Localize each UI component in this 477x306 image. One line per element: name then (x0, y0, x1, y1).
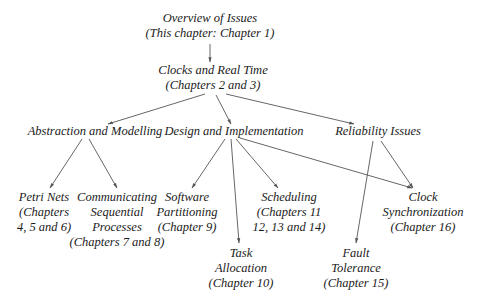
node-overview-subtitle: (This chapter: Chapter 1) (146, 26, 275, 41)
node-clocks-title: Clocks and Real Time (158, 63, 267, 78)
node-csp-line-2: Sequential (70, 205, 165, 220)
edge-design-software (192, 139, 225, 188)
node-abstraction: Abstraction and Modelling (28, 124, 163, 139)
node-task: Task Allocation (Chapter 10) (209, 246, 274, 291)
node-csp-line-3: Processes (70, 220, 165, 235)
edge-clocks-design (216, 95, 231, 124)
edge-abstraction-petri (50, 139, 82, 188)
node-csp: Communicating Sequential Processes (Chap… (70, 190, 165, 250)
node-software-line-2: Partitioning (156, 205, 217, 220)
node-petri: Petri Nets (Chapters 4, 5 and 6) (17, 190, 71, 235)
edge-reliability-fault (356, 141, 373, 243)
node-scheduling: Scheduling (Chapters 11 12, 13 and 14) (253, 190, 326, 235)
node-software-line-3: (Chapter 9) (156, 220, 217, 235)
node-fault: Fault Tolerance (Chapter 15) (324, 246, 389, 291)
node-fault-line-1: Fault (324, 246, 389, 261)
edge-design-clocksync (240, 138, 412, 188)
node-clocksync-line-2: Synchronization (383, 205, 464, 220)
node-reliability-title: Reliability Issues (335, 124, 421, 139)
edge-abstraction-csp (89, 139, 117, 188)
node-clocksync-line-1: Clock (383, 190, 464, 205)
node-task-line-1: Task (209, 246, 274, 261)
edge-reliability-clocksync (381, 141, 413, 188)
node-csp-line-4: (Chapters 7 and 8) (70, 235, 165, 250)
diagram-canvas: Overview of Issues (This chapter: Chapte… (0, 0, 477, 306)
edge-clocks-reliability (226, 94, 354, 124)
node-clocksync: Clock Synchronization (Chapter 16) (383, 190, 464, 235)
node-abstraction-title: Abstraction and Modelling (28, 124, 163, 139)
edge-design-task (231, 139, 239, 243)
node-design-title: Design and Implementation (165, 124, 304, 139)
node-fault-line-2: Tolerance (324, 261, 389, 276)
node-scheduling-line-3: 12, 13 and 14) (253, 220, 326, 235)
node-design: Design and Implementation (165, 124, 304, 139)
node-csp-line-1: Communicating (70, 190, 165, 205)
node-software-line-1: Software (156, 190, 217, 205)
node-task-line-3: (Chapter 10) (209, 276, 274, 291)
node-overview-title: Overview of Issues (146, 11, 275, 26)
node-clocksync-line-3: (Chapter 16) (383, 220, 464, 235)
node-clocks: Clocks and Real Time (Chapters 2 and 3) (158, 63, 267, 93)
node-task-line-2: Allocation (209, 261, 274, 276)
edge-clocks-abstraction (108, 94, 205, 124)
node-software: Software Partitioning (Chapter 9) (156, 190, 217, 235)
node-scheduling-line-2: (Chapters 11 (253, 205, 326, 220)
edge-design-scheduling (236, 139, 278, 188)
node-petri-line-2: (Chapters (17, 205, 71, 220)
node-fault-line-3: (Chapter 15) (324, 276, 389, 291)
node-petri-line-1: Petri Nets (17, 190, 71, 205)
node-overview: Overview of Issues (This chapter: Chapte… (146, 11, 275, 41)
node-clocks-subtitle: (Chapters 2 and 3) (158, 78, 267, 93)
node-petri-line-3: 4, 5 and 6) (17, 220, 71, 235)
node-reliability: Reliability Issues (335, 124, 421, 139)
node-scheduling-line-1: Scheduling (253, 190, 326, 205)
